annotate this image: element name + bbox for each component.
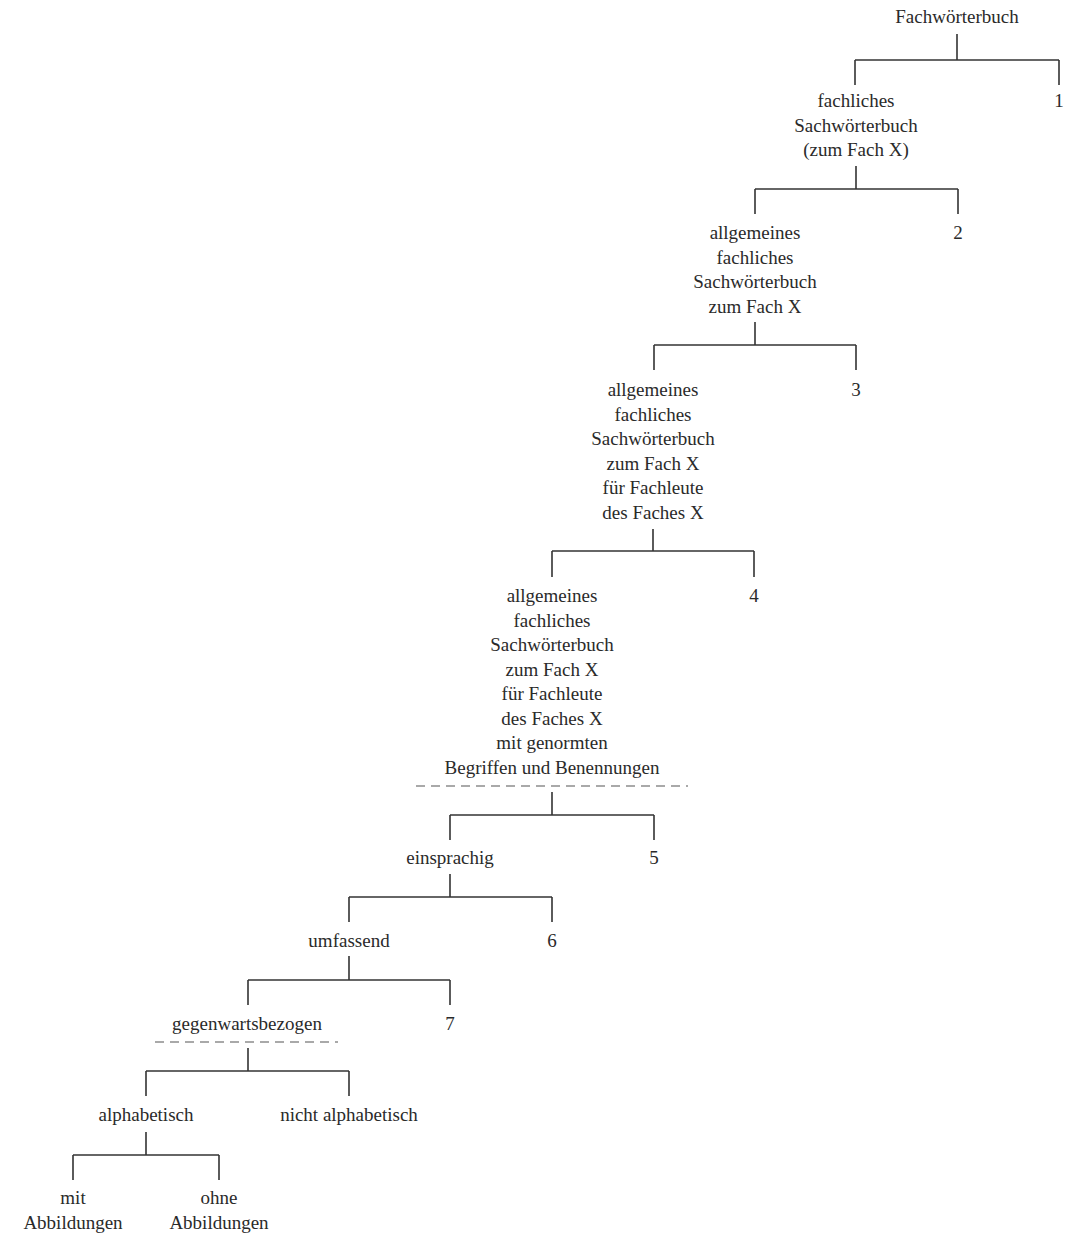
node-line: fachliches	[445, 609, 660, 634]
node-line: allgemeines	[445, 584, 660, 609]
node-line: fachliches	[591, 403, 714, 428]
node-line: fachliches	[794, 89, 917, 114]
node-line: mit	[23, 1186, 122, 1211]
tree-root: Fachwörterbuch	[895, 5, 1018, 30]
node-level-3: allgemeines fachliches Sachwörterbuch zu…	[591, 378, 714, 525]
branch-number-3: 3	[851, 378, 861, 402]
node-line: (zum Fach X)	[794, 138, 917, 163]
node-ohne-abbildungen: ohne Abbildungen	[169, 1186, 268, 1235]
node-line: einsprachig	[406, 846, 494, 871]
node-alphabetisch: alphabetisch	[99, 1103, 194, 1128]
branch-number-1: 1	[1054, 89, 1064, 113]
node-line: zum Fach X	[591, 452, 714, 477]
branch-number-7: 7	[445, 1012, 455, 1036]
node-line: Begriffen und Benennungen	[445, 756, 660, 781]
node-line: gegenwartsbezogen	[172, 1012, 322, 1037]
node-line: Abbildungen	[169, 1211, 268, 1236]
node-line: allgemeines	[693, 221, 816, 246]
node-line: umfassend	[308, 929, 389, 954]
branch-number-5: 5	[649, 846, 659, 870]
node-line: alphabetisch	[99, 1103, 194, 1128]
node-line: zum Fach X	[693, 295, 816, 320]
node-line: Sachwörterbuch	[445, 633, 660, 658]
node-line: für Fachleute	[591, 476, 714, 501]
node-line: Sachwörterbuch	[693, 270, 816, 295]
node-line: des Faches X	[591, 501, 714, 526]
node-mit-abbildungen: mit Abbildungen	[23, 1186, 122, 1235]
node-level-4: allgemeines fachliches Sachwörterbuch zu…	[445, 584, 660, 780]
node-line: Sachwörterbuch	[794, 114, 917, 139]
node-line: ohne	[169, 1186, 268, 1211]
node-line: für Fachleute	[445, 682, 660, 707]
node-line: nicht alphabetisch	[280, 1103, 418, 1128]
branch-number-2: 2	[953, 221, 963, 245]
root-label: Fachwörterbuch	[895, 6, 1018, 27]
node-line: Abbildungen	[23, 1211, 122, 1236]
node-level-2: allgemeines fachliches Sachwörterbuch zu…	[693, 221, 816, 319]
node-line: allgemeines	[591, 378, 714, 403]
node-nicht-alphabetisch: nicht alphabetisch	[280, 1103, 418, 1128]
branch-number-4: 4	[749, 584, 759, 608]
node-line: zum Fach X	[445, 658, 660, 683]
node-line: des Faches X	[445, 707, 660, 732]
node-gegenwartsbezogen: gegenwartsbezogen	[172, 1012, 322, 1037]
node-line: Sachwörterbuch	[591, 427, 714, 452]
node-einsprachig: einsprachig	[406, 846, 494, 871]
node-line: fachliches	[693, 246, 816, 271]
branch-number-6: 6	[547, 929, 557, 953]
node-umfassend: umfassend	[308, 929, 389, 954]
node-line: mit genormten	[445, 731, 660, 756]
node-level-1: fachliches Sachwörterbuch (zum Fach X)	[794, 89, 917, 163]
